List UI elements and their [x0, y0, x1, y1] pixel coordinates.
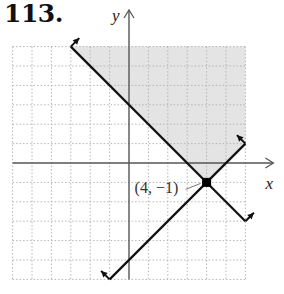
shaded-region	[71, 47, 246, 183]
vertex-marker	[202, 178, 211, 187]
vertex-leader-line	[186, 183, 201, 189]
boundary-line-2	[110, 144, 246, 280]
vertex-label: (4, −1)	[135, 179, 179, 197]
inequality-graph: xy(4, −1)	[0, 0, 284, 294]
y-axis-label: y	[110, 6, 120, 25]
x-axis-label: x	[264, 174, 273, 193]
